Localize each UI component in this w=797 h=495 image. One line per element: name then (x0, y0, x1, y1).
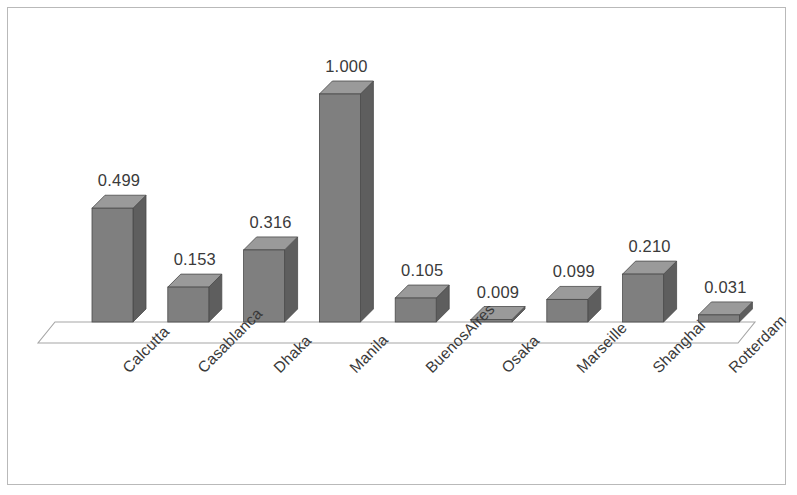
bar-front-face (92, 208, 133, 322)
bar-shanghai[interactable] (623, 261, 677, 322)
value-label-manila: 1.000 (306, 57, 386, 76)
bar-side-face (133, 195, 146, 322)
value-label-dhaka: 0.316 (231, 213, 311, 232)
value-label-casablanca: 0.153 (155, 250, 235, 269)
bar-front-face (168, 287, 209, 322)
plot-area: 0.4990.1530.3161.0000.1050.0090.0990.210… (0, 0, 797, 495)
chart-container: 0.4990.1530.3161.0000.1050.0090.0990.210… (0, 0, 797, 495)
bar-marseille[interactable] (547, 286, 601, 322)
bar-front-face (319, 94, 360, 322)
value-label-buenosaires: 0.105 (382, 261, 462, 280)
value-label-osaka: 0.009 (458, 283, 538, 302)
value-label-marseille: 0.099 (534, 262, 614, 281)
bar-side-face (360, 81, 373, 322)
bar-front-face (547, 299, 588, 322)
bar-front-face (623, 274, 664, 322)
bar-manila[interactable] (319, 81, 373, 322)
bar-casablanca[interactable] (168, 274, 222, 322)
bar-buenosaires[interactable] (395, 285, 449, 322)
value-label-calcutta: 0.499 (79, 171, 159, 190)
bar-rotterdam[interactable] (698, 302, 752, 322)
value-label-shanghai: 0.210 (610, 237, 690, 256)
value-label-rotterdam: 0.031 (685, 278, 765, 297)
bar-front-face (698, 315, 739, 322)
bar-front-face (395, 298, 436, 322)
bar-side-face (285, 237, 298, 322)
bar-calcutta[interactable] (92, 195, 146, 322)
